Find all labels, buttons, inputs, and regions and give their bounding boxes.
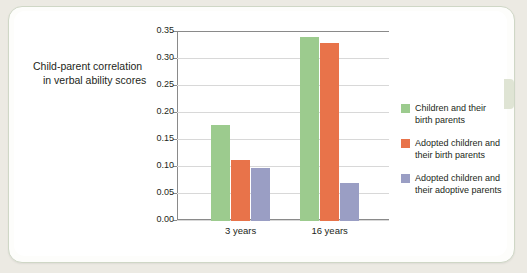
y-tick-label: 0.30: [140, 52, 174, 62]
legend-label-line-2: their birth parents: [415, 150, 485, 160]
y-tick-label: 0.15: [140, 133, 174, 143]
y-tick-label: 0.10: [140, 160, 174, 170]
x-tick-label: 16 years: [290, 225, 370, 236]
legend-swatch-icon: [401, 139, 410, 148]
legend-label-line-2: birth parents: [415, 115, 465, 125]
bar: [340, 183, 359, 221]
gridline: [177, 58, 389, 59]
legend-item: Adopted children and their birth parents: [401, 138, 519, 161]
y-tick-label: 0.20: [140, 106, 174, 116]
legend-label-line-2: their adoptive parents: [415, 185, 502, 195]
bar: [251, 168, 270, 221]
figure-card: Child-parent correlation in verbal abili…: [8, 6, 515, 263]
caption-line-1: Child-parent correlation: [33, 60, 142, 72]
y-tick-label: 0.00: [140, 214, 174, 224]
y-tick-label: 0.25: [140, 79, 174, 89]
x-tick-label: 3 years: [201, 225, 281, 236]
legend-label-line-1: Children and their: [415, 103, 486, 113]
gridline: [177, 139, 389, 140]
bar: [211, 125, 230, 221]
gridline: [177, 85, 389, 86]
legend-label-line-1: Adopted children and: [415, 173, 500, 183]
bar: [231, 160, 250, 221]
plot-area: 0.000.050.100.150.200.250.300.35 3 years…: [177, 31, 390, 221]
bar: [320, 43, 339, 221]
gridline: [177, 166, 389, 167]
legend-item: Adopted children and their adoptive pare…: [401, 173, 519, 196]
chart-legend: Children and their birth parents Adopted…: [401, 103, 519, 208]
legend-label-line-1: Adopted children and: [415, 138, 500, 148]
y-tick-label: 0.35: [140, 25, 174, 35]
gridline: [177, 112, 389, 113]
page-root: Child-parent correlation in verbal abili…: [0, 0, 527, 273]
gridline: [177, 31, 389, 32]
legend-swatch-icon: [401, 104, 410, 113]
legend-swatch-icon: [401, 174, 410, 183]
y-tick-label: 0.05: [140, 187, 174, 197]
bar: [300, 37, 319, 221]
legend-item: Children and their birth parents: [401, 103, 519, 126]
